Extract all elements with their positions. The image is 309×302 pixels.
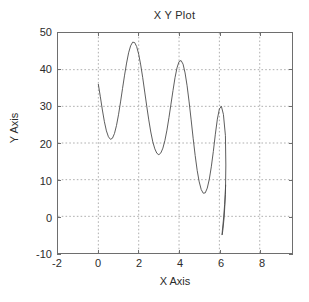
y-tick-mark bbox=[57, 32, 61, 33]
y-tick-label-20: 20 bbox=[28, 138, 52, 150]
y-tick-mark bbox=[289, 217, 293, 218]
y-tick-label-50: 50 bbox=[28, 26, 52, 38]
y-tick-mark bbox=[289, 254, 293, 255]
x-tick-label-6: 6 bbox=[206, 257, 236, 269]
y-tick-mark bbox=[57, 143, 61, 144]
x-tick-mark bbox=[179, 250, 180, 254]
y-axis-label: Y Axis bbox=[8, 98, 20, 158]
x-tick-mark bbox=[260, 250, 261, 254]
x-tick-mark bbox=[179, 32, 180, 36]
x-tick-mark bbox=[138, 250, 139, 254]
chart-title-text: X Y Plot bbox=[154, 9, 196, 21]
y-tick-mark bbox=[57, 106, 61, 107]
y-tick-mark bbox=[289, 106, 293, 107]
y-tick-label-30: 30 bbox=[28, 100, 52, 112]
x-tick-label-4: 4 bbox=[165, 257, 195, 269]
x-tick-label-8: 8 bbox=[247, 257, 277, 269]
x-tick-mark bbox=[98, 32, 99, 36]
y-tick-label-10: 10 bbox=[28, 175, 52, 187]
y-tick-mark bbox=[57, 254, 61, 255]
x-axis-label: X Axis bbox=[57, 275, 293, 287]
y-tick-mark bbox=[289, 32, 293, 33]
y-tick-mark bbox=[57, 180, 61, 181]
y-tick-label-0: 0 bbox=[28, 212, 52, 224]
y-tick-mark bbox=[289, 143, 293, 144]
y-tick-mark bbox=[289, 180, 293, 181]
x-tick-mark bbox=[260, 32, 261, 36]
x-tick-mark bbox=[138, 32, 139, 36]
x-tick-mark bbox=[220, 32, 221, 36]
plot-canvas bbox=[58, 33, 292, 253]
x-tick-mark bbox=[220, 250, 221, 254]
y-tick-mark bbox=[57, 217, 61, 218]
data-series-line bbox=[98, 42, 225, 235]
x-tick-label-neg2: -2 bbox=[42, 257, 72, 269]
y-tick-mark bbox=[289, 69, 293, 70]
y-tick-mark bbox=[57, 69, 61, 70]
horizontal-gridlines bbox=[58, 70, 292, 217]
x-tick-label-2: 2 bbox=[124, 257, 154, 269]
xy-plot-figure: X Y Plot 50 40 30 20 10 0 -10 -2 0 2 4 6… bbox=[0, 0, 309, 302]
x-axis-tick-labels: -2 0 2 4 6 8 bbox=[0, 257, 309, 273]
x-tick-mark bbox=[98, 250, 99, 254]
x-tick-label-0: 0 bbox=[83, 257, 113, 269]
plot-area bbox=[57, 32, 293, 254]
y-tick-label-40: 40 bbox=[28, 63, 52, 75]
